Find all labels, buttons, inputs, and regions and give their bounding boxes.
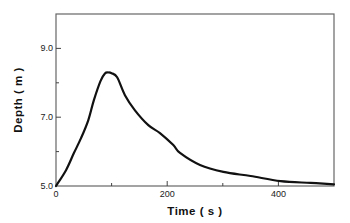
x-tick-label: 200: [160, 189, 175, 199]
y-tick-label: 7.0: [40, 112, 53, 122]
depth-time-chart: 0200400 5.07.09.0 Time ( s ) Depth ( m ): [0, 0, 350, 223]
x-axis-label: Time ( s ): [167, 205, 222, 217]
y-axis-ticks: 5.07.09.0: [40, 43, 61, 191]
plot-frame: [56, 14, 334, 186]
y-tick-label: 9.0: [40, 43, 53, 53]
x-axis-ticks: 0200400: [53, 181, 285, 199]
depth-curve: [56, 72, 334, 186]
x-tick-label: 0: [53, 189, 58, 199]
y-tick-label: 5.0: [40, 181, 53, 191]
y-axis-label: Depth ( m ): [12, 67, 24, 133]
x-tick-label: 400: [271, 189, 286, 199]
